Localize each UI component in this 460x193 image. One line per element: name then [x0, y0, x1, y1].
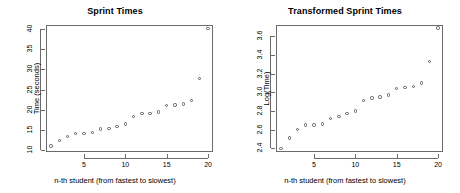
plot-frame-right: [276, 25, 443, 152]
panel-title-right: Transformed Sprint Times: [230, 6, 460, 16]
data-point: [173, 103, 176, 106]
data-point: [82, 132, 85, 135]
y-axis-tick: [271, 148, 275, 149]
data-point: [182, 102, 185, 105]
x-axis-tick: [167, 154, 168, 158]
x-axis-tick: [208, 154, 209, 158]
data-point: [378, 95, 381, 98]
x-axis-tick-label: 20: [198, 161, 218, 168]
y-axis-tick: [41, 130, 45, 131]
data-point: [312, 123, 315, 126]
data-point: [321, 122, 324, 125]
data-point: [370, 96, 373, 99]
data-point: [99, 127, 102, 130]
y-axis-tick-label: 3.6: [256, 27, 263, 45]
panel-sprint-times: Sprint Times 510152010152025303540 n-th …: [0, 0, 230, 193]
x-axis-tick: [355, 154, 356, 158]
y-axis-tick-label: 40: [26, 20, 33, 38]
data-point: [148, 112, 151, 115]
y-axis-tick: [41, 110, 45, 111]
data-point: [337, 115, 340, 118]
data-point: [124, 122, 127, 125]
x-axis-tick-label: 20: [428, 161, 448, 168]
y-axis-tick: [271, 36, 275, 37]
y-axis-tick-label: 2.4: [256, 139, 263, 157]
x-axis-tick: [397, 154, 398, 158]
data-point: [436, 26, 439, 29]
plot-frame-left: [46, 25, 213, 152]
y-axis-tick-label: 10: [26, 140, 33, 158]
x-axis-line: [314, 158, 438, 159]
data-point: [288, 136, 291, 139]
data-point: [279, 147, 282, 150]
y-axis-tick: [41, 150, 45, 151]
y-axis-tick: [271, 111, 275, 112]
y-axis-title-left: Time (seconds): [32, 48, 41, 128]
data-point: [157, 110, 160, 113]
x-axis-tick: [125, 154, 126, 158]
x-axis-tick: [314, 154, 315, 158]
y-axis-title-right: Log(Time): [262, 48, 271, 128]
x-axis-tick-label: 15: [157, 161, 177, 168]
data-point: [107, 127, 110, 130]
x-axis-tick-label: 10: [345, 161, 365, 168]
x-axis-line: [84, 158, 208, 159]
data-point: [49, 144, 52, 147]
y-axis-tick: [41, 29, 45, 30]
x-axis-tick-label: 5: [304, 161, 324, 168]
x-axis-tick-label: 5: [74, 161, 94, 168]
x-axis-title-left: n-th student (from fastest to slowest): [0, 176, 230, 185]
y-axis-tick: [271, 92, 275, 93]
data-point: [206, 27, 209, 30]
x-axis-tick-label: 10: [115, 161, 135, 168]
y-axis-tick: [41, 49, 45, 50]
x-axis-tick: [438, 154, 439, 158]
y-axis-tick: [41, 90, 45, 91]
data-point: [115, 125, 118, 128]
x-axis-title-right: n-th student (from fastest to slowest): [230, 176, 460, 185]
figure-canvas: Sprint Times 510152010152025303540 n-th …: [0, 0, 460, 193]
x-axis-tick: [84, 154, 85, 158]
y-axis-tick: [271, 74, 275, 75]
data-point: [354, 109, 357, 112]
y-axis-tick: [41, 69, 45, 70]
y-axis-tick: [271, 130, 275, 131]
panel-transformed-sprint-times: Transformed Sprint Times 51015202.42.62.…: [230, 0, 460, 193]
panel-title-left: Sprint Times: [0, 6, 230, 16]
data-point: [387, 93, 390, 96]
data-point: [403, 86, 406, 89]
data-point: [420, 81, 423, 84]
x-axis-tick-label: 15: [387, 161, 407, 168]
data-point: [140, 112, 143, 115]
y-axis-tick: [271, 55, 275, 56]
